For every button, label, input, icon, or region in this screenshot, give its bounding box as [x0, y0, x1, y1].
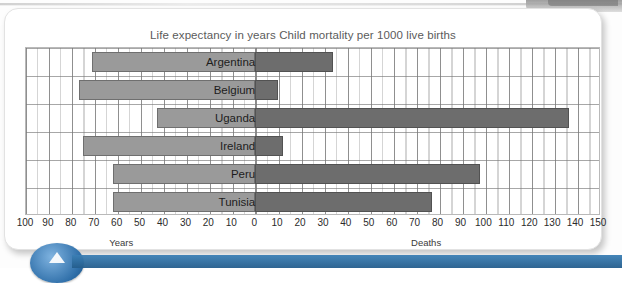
chart-plot-area: ArgentinaBelgiumUgandaIrelandPeruTunisia: [25, 47, 600, 215]
axis-tick-label: 90: [455, 217, 466, 228]
bar-child-mortality: [255, 164, 480, 184]
axis-tick-label: 40: [157, 217, 168, 228]
axis-tick-label: 80: [65, 217, 76, 228]
axis-tick-label: 20: [294, 217, 305, 228]
page-footer-bar: [72, 255, 622, 268]
left-axis-caption: Years: [109, 237, 133, 248]
axis-tick-label: 10: [272, 217, 283, 228]
chart-row: Belgium: [26, 76, 599, 104]
axis-tick-label: 70: [409, 217, 420, 228]
country-label: Uganda: [26, 108, 260, 128]
axis-tick-label: 40: [340, 217, 351, 228]
axis-tick-label: 20: [203, 217, 214, 228]
axis-tick-label: 50: [363, 217, 374, 228]
chart-row: Tunisia: [26, 188, 599, 215]
country-label: Tunisia: [26, 192, 260, 212]
bar-child-mortality: [255, 192, 431, 212]
axis-tick-label: 60: [386, 217, 397, 228]
axis-tick-label: 100: [475, 217, 492, 228]
axis-tick-label: 50: [134, 217, 145, 228]
axis-tick-label: 30: [180, 217, 191, 228]
country-label: Argentina: [26, 52, 260, 72]
chart-row: Ireland: [26, 132, 599, 160]
axis-tick-label: 110: [498, 217, 514, 228]
chart-title: Life expectancy in years Child mortality…: [25, 29, 581, 41]
axis-tick-label: 30: [317, 217, 328, 228]
axis-tick-label: 10: [226, 217, 237, 228]
right-axis-caption: Deaths: [411, 237, 441, 248]
chart-row: Peru: [26, 160, 599, 188]
country-label: Peru: [26, 164, 260, 184]
figure-card: Life expectancy in years Child mortality…: [4, 8, 602, 250]
axis-tick-label: 100: [17, 217, 34, 228]
axis-tick-label: 120: [521, 217, 538, 228]
axis-tick-label: 70: [88, 217, 99, 228]
country-label: Belgium: [26, 80, 260, 100]
axis-tick-label: 140: [567, 217, 584, 228]
chart-row: Uganda: [26, 104, 599, 132]
country-label: Ireland: [26, 136, 260, 156]
chart-row: Argentina: [26, 48, 599, 76]
axis-tick-label: 150: [590, 217, 607, 228]
axis-tick-label: 80: [432, 217, 443, 228]
up-arrow-icon: [49, 252, 65, 263]
chart-title-left: Life expectancy in years: [150, 29, 276, 41]
x-axis-ticks: 1009080706050403020100102030405060708090…: [25, 215, 600, 231]
axis-tick-label: 90: [42, 217, 53, 228]
axis-tick-label: 60: [111, 217, 122, 228]
bar-child-mortality: [255, 108, 569, 128]
bar-child-mortality: [255, 52, 333, 72]
chart-title-right: Child mortality per 1000 live births: [279, 29, 456, 41]
page-corner-strip-inner: [548, 0, 618, 6]
axis-tick-label: 0: [251, 217, 257, 228]
axis-tick-label: 130: [544, 217, 561, 228]
